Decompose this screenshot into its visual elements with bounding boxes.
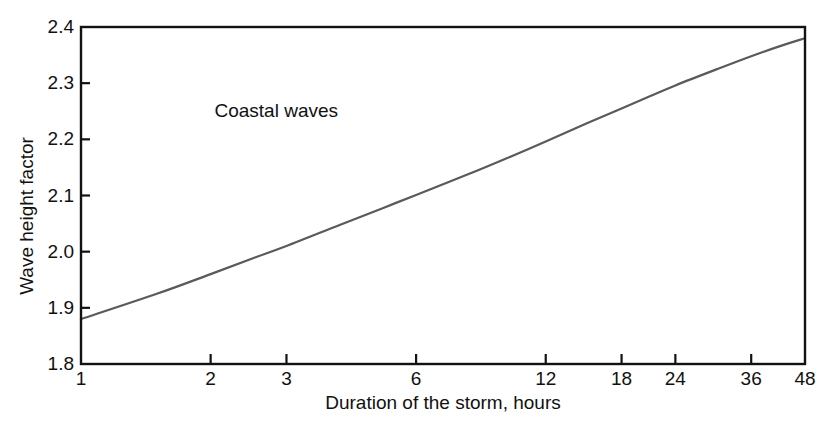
x-tick-label: 36 [721,369,781,388]
x-tick-label: 48 [775,369,833,388]
x-tick-label: 3 [256,369,316,388]
x-tick-label: 12 [516,369,576,388]
x-tick-label: 6 [386,369,446,388]
y-tick-label: 2.3 [14,73,74,92]
plot-area [0,0,833,431]
series-annotation-label: Coastal waves [214,100,338,122]
y-tick-label: 2.4 [14,17,74,36]
y-tick-label: 2.2 [14,129,74,148]
x-tick-label: 2 [181,369,241,388]
y-axis-tick-labels: 1.81.92.02.12.22.32.4 [8,0,74,431]
x-tick-label: 18 [592,369,652,388]
y-tick-label: 2.1 [14,186,74,205]
x-axis-title: Duration of the storm, hours [81,392,805,414]
y-tick-label: 1.9 [14,298,74,317]
x-tick-label: 1 [51,369,111,388]
chart-figure: Wave height factor 1.81.92.02.12.22.32.4… [0,0,833,431]
y-tick-label: 2.0 [14,242,74,261]
x-tick-label: 24 [645,369,705,388]
